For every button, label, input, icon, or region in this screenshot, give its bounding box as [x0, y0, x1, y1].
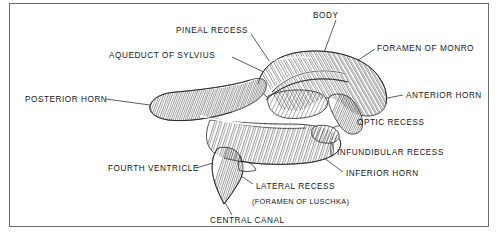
label-central-canal: CENTRAL CANAL: [210, 216, 285, 225]
label-optic-recess: OPTIC RECESS: [357, 118, 425, 127]
label-body: BODY: [313, 11, 338, 20]
label-posterior-horn: POSTERIOR HORN: [25, 95, 107, 104]
ventricular-system-illustration: [0, 0, 501, 247]
anatomical-figure: PINEAL RECESS AQUEDUCT OF SYLVIUS BODY F…: [0, 0, 501, 247]
label-pineal-recess: PINEAL RECESS: [176, 26, 248, 35]
label-fourth-ventricle: FOURTH VENTRICLE: [108, 164, 199, 173]
label-foramen-of-luschka: (FORAMEN OF LUSCHKA): [252, 197, 349, 206]
label-inferior-horn: INFERIOR HORN: [346, 169, 419, 178]
label-aqueduct-of-sylvius: AQUEDUCT OF SYLVIUS: [109, 51, 215, 60]
label-anterior-horn: ANTERIOR HORN: [406, 91, 482, 100]
label-foramen-of-monro: FORAMEN OF MONRO: [377, 44, 474, 53]
label-lateral-recess: LATERAL RECESS: [256, 182, 335, 191]
label-infundibular-recess: INFUNDIBULAR RECESS: [337, 148, 444, 157]
